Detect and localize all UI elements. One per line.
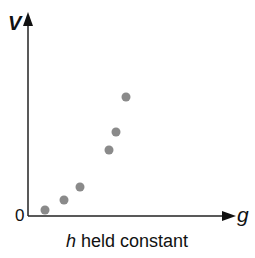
caption-variable: h <box>66 231 76 251</box>
caption-text: held constant <box>76 231 188 251</box>
y-axis-arrow-icon <box>23 12 33 26</box>
data-point <box>122 93 131 102</box>
data-point <box>112 128 121 137</box>
origin-label: 0 <box>15 206 24 226</box>
data-points <box>41 93 131 215</box>
y-axis-label: V <box>8 12 21 35</box>
x-axis-label: g <box>237 203 249 227</box>
caption: h held constant <box>66 231 188 252</box>
data-point <box>41 206 50 215</box>
data-point <box>60 196 69 205</box>
scatter-plot <box>0 0 255 258</box>
data-point <box>76 183 85 192</box>
data-point <box>105 146 114 155</box>
x-axis-arrow-icon <box>222 211 236 221</box>
